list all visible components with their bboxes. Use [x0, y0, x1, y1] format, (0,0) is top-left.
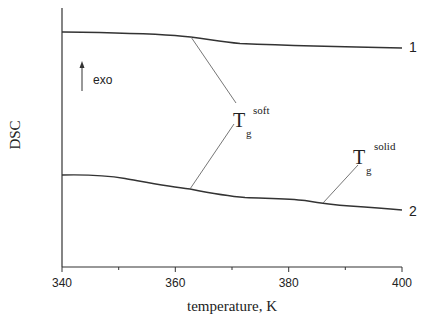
tg-solid-main: T [353, 146, 365, 168]
tg-soft-sub: g [246, 127, 252, 139]
tg-solid-sub: g [366, 164, 372, 176]
curve-2 [62, 175, 402, 210]
curve-2-label: 2 [409, 203, 417, 219]
exo-arrowhead-icon [80, 61, 85, 68]
tg-solid-leader [323, 165, 358, 203]
exo-label: exo [93, 73, 113, 87]
tg-solid-sup: solid [374, 140, 396, 152]
tick-label-360: 360 [165, 276, 185, 290]
dsc-chart: 340 360 380 400 temperature, K DSC exo 1… [0, 0, 428, 320]
y-axis-title: DSC [7, 120, 23, 149]
tg-soft-sup: soft [253, 104, 270, 116]
tg-soft-main: T [233, 109, 245, 131]
x-axis-title: temperature, K [187, 298, 277, 314]
tick-label-340: 340 [52, 276, 72, 290]
tick-label-380: 380 [279, 276, 299, 290]
tg-soft-leader-upper [191, 37, 236, 103]
tick-label-400: 400 [392, 276, 412, 290]
curve-1 [62, 32, 402, 48]
x-ticks [62, 267, 402, 272]
curve-1-label: 1 [409, 39, 417, 55]
tg-soft-leader-lower [190, 124, 234, 189]
